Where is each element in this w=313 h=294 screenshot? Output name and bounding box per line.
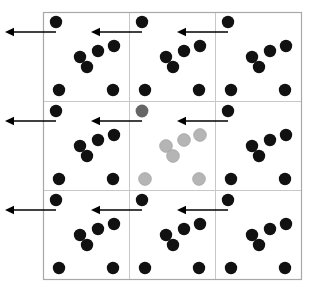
particle-cell-center-primary-p1	[136, 105, 149, 118]
particle-cell-bottom-center-p4	[167, 239, 179, 251]
particle-cell-center-primary-p4	[167, 150, 180, 163]
particle-cell-top-right-p6	[225, 84, 237, 96]
particle-cell-top-right-p1	[222, 16, 234, 28]
particle-cell-bottom-left-p3	[92, 223, 104, 235]
particle-cell-bottom-left-p2	[74, 229, 86, 241]
particle-cell-bottom-center-p6	[139, 262, 151, 274]
particle-cell-top-right-p2	[246, 51, 258, 63]
particle-cell-middle-right-p5	[280, 129, 292, 141]
particle-cell-top-left-p3	[92, 45, 104, 57]
arrow-row1-col1-head	[5, 28, 14, 36]
particle-cell-top-right-p7	[279, 84, 291, 96]
particle-cell-bottom-right-p3	[264, 223, 276, 235]
particle-cell-top-right-p4	[253, 61, 265, 73]
particle-cell-top-right-p5	[280, 40, 292, 52]
particle-cell-top-center-p7	[193, 84, 205, 96]
particle-cell-bottom-left-p4	[81, 239, 93, 251]
particle-cell-bottom-right-p7	[279, 262, 291, 274]
particle-cell-top-center-p1	[136, 16, 148, 28]
particle-cell-middle-right-p1	[222, 105, 234, 117]
particle-cell-top-left-p4	[81, 61, 93, 73]
particle-cell-bottom-left-p7	[107, 262, 119, 274]
particle-cell-center-primary-p3	[178, 134, 191, 147]
particle-cell-top-left-p5	[108, 40, 120, 52]
particle-cell-top-center-p3	[178, 45, 190, 57]
particle-cell-bottom-right-p4	[253, 239, 265, 251]
periodic-cell-figure	[0, 0, 313, 294]
particle-cell-bottom-right-p1	[222, 194, 234, 206]
particle-cell-bottom-center-p1	[136, 194, 148, 206]
particle-cell-bottom-left-p5	[108, 218, 120, 230]
particle-cell-top-left-p6	[53, 84, 65, 96]
particle-cell-middle-right-p7	[279, 173, 291, 185]
particle-cell-middle-left-p2	[74, 140, 86, 152]
particle-cell-bottom-left-p6	[53, 262, 65, 274]
particle-cell-bottom-right-p2	[246, 229, 258, 241]
particle-cell-middle-right-p3	[264, 134, 276, 146]
particle-cell-middle-left-p1	[50, 105, 62, 117]
particle-cell-middle-right-p6	[225, 173, 237, 185]
particle-cell-middle-left-p6	[53, 173, 65, 185]
particle-cell-middle-right-p4	[253, 150, 265, 162]
particle-cell-top-center-p2	[160, 51, 172, 63]
particle-cell-middle-left-p5	[108, 129, 120, 141]
particle-cell-center-primary-p5	[194, 129, 207, 142]
particle-cell-top-center-p6	[139, 84, 151, 96]
arrow-row2-col1-head	[5, 117, 14, 125]
particle-cell-bottom-right-p5	[280, 218, 292, 230]
particle-cell-bottom-center-p7	[193, 262, 205, 274]
particle-cell-top-left-p2	[74, 51, 86, 63]
particle-cell-top-right-p3	[264, 45, 276, 57]
particle-cell-bottom-center-p5	[194, 218, 206, 230]
particle-cell-top-left-p7	[107, 84, 119, 96]
particle-cell-middle-right-p2	[246, 140, 258, 152]
figure-canvas	[0, 0, 313, 294]
particle-cell-bottom-center-p3	[178, 223, 190, 235]
particle-cell-top-left-p1	[50, 16, 62, 28]
particle-cell-bottom-left-p1	[50, 194, 62, 206]
arrow-row3-col1-head	[5, 206, 14, 214]
particle-cell-center-primary-p6	[139, 173, 152, 186]
particle-cell-middle-left-p3	[92, 134, 104, 146]
particle-cell-bottom-center-p2	[160, 229, 172, 241]
particle-cell-bottom-right-p6	[225, 262, 237, 274]
particle-cell-top-center-p4	[167, 61, 179, 73]
particle-cell-middle-left-p7	[107, 173, 119, 185]
particle-cell-center-primary-p7	[193, 173, 206, 186]
particle-cell-top-center-p5	[194, 40, 206, 52]
particle-cell-middle-left-p4	[81, 150, 93, 162]
